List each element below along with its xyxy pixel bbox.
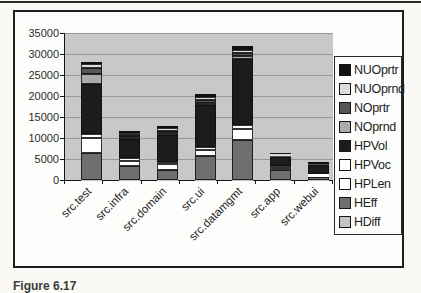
bar-segment-NUOprtr xyxy=(270,153,291,154)
y-tick-label: 20000 xyxy=(17,90,59,102)
legend-item-HPVoc: HPVoc xyxy=(339,156,399,174)
legend-label: NUOprnd xyxy=(354,82,405,96)
x-category-label: src.infra xyxy=(57,185,131,259)
legend-swatch-HPVoc xyxy=(339,159,351,171)
bar-segment-NOprtr xyxy=(81,68,102,74)
legend-label: HPVoc xyxy=(354,158,391,172)
bar-segment-HPLen xyxy=(157,164,178,169)
bar-segment-NUOprtr xyxy=(119,131,140,133)
y-tick-label: 30000 xyxy=(17,48,59,60)
legend-label: NOprtr xyxy=(354,101,390,115)
bar-segment-HDiff xyxy=(270,180,291,181)
bar-segment-NOprtr xyxy=(195,100,216,103)
bar-segment-HEff xyxy=(308,177,329,180)
bar-segment-HEff xyxy=(232,140,253,179)
y-tick-label: 10000 xyxy=(17,132,59,144)
bar-segment-HPVol xyxy=(232,59,253,125)
legend-item-HPLen: HPLen xyxy=(339,175,399,193)
legend-label: NOprnd xyxy=(354,120,396,134)
legend-swatch-HDiff xyxy=(339,216,351,228)
bar-segment-NUOprtr xyxy=(81,62,102,64)
x-tick-mark xyxy=(255,181,256,184)
top-rule xyxy=(0,1,421,3)
bar-segment-NOprnd xyxy=(232,56,253,59)
legend-swatch-HPVol xyxy=(339,140,351,152)
bar-segment-NUOprtr xyxy=(232,46,253,50)
bar-segment-NUOprtr xyxy=(195,94,216,97)
bar-segment-NOprtr xyxy=(270,156,291,157)
bar-segment-NUOprnd xyxy=(270,154,291,155)
y-tick-mark xyxy=(60,33,64,34)
bar-segment-HPLen xyxy=(308,176,329,177)
bar-segment-NUOprnd xyxy=(232,50,253,53)
gridline xyxy=(65,54,333,55)
legend-item-HPVol: HPVol xyxy=(339,137,399,155)
bar-segment-HPVoc xyxy=(270,166,291,168)
legend-swatch-NOprnd xyxy=(339,121,351,133)
legend-swatch-HEff xyxy=(339,197,351,209)
x-category-label: src.datamgmt xyxy=(171,185,245,259)
bar-segment-HPVol xyxy=(157,135,178,162)
y-tick-label: 15000 xyxy=(17,111,59,123)
legend-swatch-NUOprnd xyxy=(339,83,351,95)
x-tick-mark xyxy=(141,181,142,184)
figure-caption: Figure 6.17 xyxy=(13,279,76,293)
gridline xyxy=(65,75,333,76)
gridline xyxy=(65,33,333,34)
bar-segment-HPLen xyxy=(195,150,216,157)
legend-label: HPLen xyxy=(354,177,391,191)
bar-segment-NUOprtr xyxy=(308,162,329,164)
x-tick-mark xyxy=(217,181,218,184)
x-category-label: src.app xyxy=(209,185,283,259)
legend: NUOprtrNUOprndNOprtrNOprndHPVolHPVocHPLe… xyxy=(334,56,402,235)
y-tick-mark xyxy=(60,54,64,55)
bar-segment-HPLen xyxy=(270,168,291,171)
y-tick-mark xyxy=(60,159,64,160)
legend-item-NUOprnd: NUOprnd xyxy=(339,80,399,98)
bar-segment-NOprnd xyxy=(119,137,140,139)
legend-item-NOprtr: NOprtr xyxy=(339,99,399,117)
bar-segment-HEff xyxy=(195,156,216,179)
legend-item-HDiff: HDiff xyxy=(339,213,399,231)
legend-swatch-NUOprtr xyxy=(339,64,351,76)
legend-item-HEff: HEff xyxy=(339,194,399,212)
bar-segment-HEff xyxy=(270,170,291,179)
bar-segment-HDiff xyxy=(308,180,329,181)
bar-segment-NOprtr xyxy=(232,53,253,56)
y-tick-mark xyxy=(60,138,64,139)
y-tick-mark xyxy=(60,117,64,118)
x-tick-mark xyxy=(64,181,65,184)
x-tick-mark xyxy=(294,181,295,184)
bar-segment-NUOprnd xyxy=(195,97,216,100)
x-tick-mark xyxy=(332,181,333,184)
bar-segment-NOprnd xyxy=(81,74,102,84)
bar-segment-HDiff xyxy=(232,180,253,181)
bar-segment-HPVoc xyxy=(308,174,329,175)
bar-segment-HPVoc xyxy=(195,147,216,150)
legend-item-NOprnd: NOprnd xyxy=(339,118,399,136)
legend-swatch-HPLen xyxy=(339,178,351,190)
bar-segment-NUOprtr xyxy=(157,126,178,128)
plot-area xyxy=(64,33,333,181)
y-tick-mark xyxy=(60,96,64,97)
bar-segment-HEff xyxy=(81,153,102,180)
x-category-label: src.domain xyxy=(95,185,169,259)
bar-segment-NOprtr xyxy=(157,131,178,133)
legend-swatch-NOprtr xyxy=(339,102,351,114)
legend-label: HDiff xyxy=(354,215,380,229)
bar-segment-HPVol xyxy=(195,105,216,147)
x-category-label: src.ui xyxy=(133,185,207,259)
bar-segment-HPVol xyxy=(81,84,102,134)
bar-segment-HPVol xyxy=(308,165,329,175)
bar-segment-HPVoc xyxy=(232,125,253,129)
y-tick-label: 35000 xyxy=(17,27,59,39)
y-tick-mark xyxy=(60,75,64,76)
x-tick-mark xyxy=(102,181,103,184)
chart-frame: 05000100001500020000250003000035000 src.… xyxy=(13,10,404,268)
legend-label: NUOprtr xyxy=(354,63,398,77)
legend-label: HPVol xyxy=(354,139,387,153)
y-tick-label: 25000 xyxy=(17,69,59,81)
y-tick-label: 5000 xyxy=(17,153,59,165)
y-tick-label: 0 xyxy=(17,174,59,186)
